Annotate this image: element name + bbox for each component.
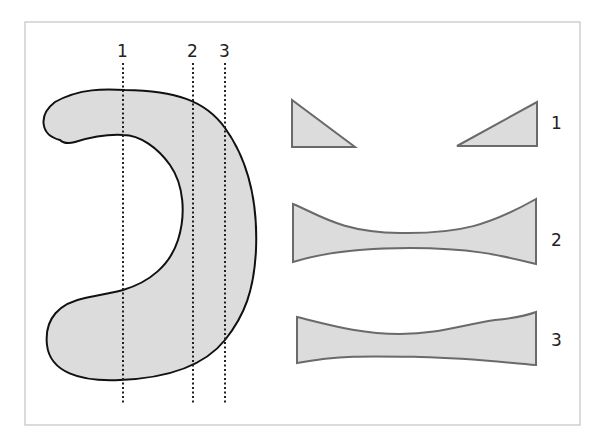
section-label-3: 3 xyxy=(551,330,562,350)
slice-label-3: 3 xyxy=(219,41,230,61)
slice-label-2: 2 xyxy=(187,41,198,61)
cross-section-diagram: 1 2 3 1 2 3 xyxy=(0,0,602,444)
section-label-2: 2 xyxy=(551,230,562,250)
slice-label-1: 1 xyxy=(117,41,128,61)
section-label-1: 1 xyxy=(551,113,562,133)
